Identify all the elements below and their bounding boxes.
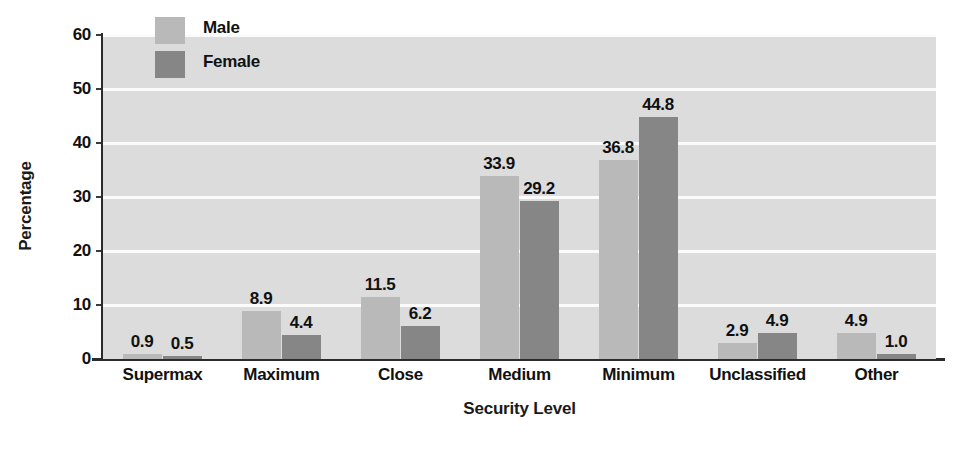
bar-male: 2.9 <box>718 343 757 359</box>
x-axis-tick-label: Close <box>378 365 423 385</box>
bar-value-label: 4.9 <box>830 311 882 331</box>
bar-value-label: 1.0 <box>870 332 922 352</box>
y-axis-tick-label: 10 <box>73 295 91 315</box>
bar-female: 4.4 <box>282 335 321 359</box>
plot-area: 0.90.58.94.411.56.233.929.236.844.82.94.… <box>103 35 936 359</box>
bar-group: 33.929.2 <box>480 35 559 359</box>
bar-chart: Percentage 0102030405060 0.90.58.94.411.… <box>0 0 972 452</box>
y-axis-tick-label: 30 <box>73 187 91 207</box>
x-axis-tick-label: Minimum <box>602 365 675 385</box>
bar-value-label: 33.9 <box>473 154 525 174</box>
bar-male: 0.9 <box>123 354 162 359</box>
bar-female: 44.8 <box>639 117 678 359</box>
y-axis-tick-label: 40 <box>73 133 91 153</box>
bar-group: 2.94.9 <box>718 35 797 359</box>
bar-group: 36.844.8 <box>599 35 678 359</box>
x-axis-tick-labels: SupermaxMaximumCloseMediumMinimumUnclass… <box>103 365 936 395</box>
bar-group: 0.90.5 <box>123 35 202 359</box>
x-axis-tick-label: Unclassified <box>709 365 806 385</box>
y-axis-ticks: 0102030405060 <box>0 0 103 452</box>
legend-item: Male <box>155 14 325 48</box>
bar-female: 6.2 <box>401 326 440 359</box>
bar-value-label: 44.8 <box>632 95 684 115</box>
legend-item: Female <box>155 48 325 82</box>
legend-label: Female <box>203 52 260 72</box>
bar-value-label: 8.9 <box>235 289 287 309</box>
bar-male: 33.9 <box>480 176 519 359</box>
bar-female: 0.5 <box>163 356 202 359</box>
bar-value-label: 6.2 <box>394 304 446 324</box>
x-axis-tick-label: Supermax <box>123 365 203 385</box>
x-axis-tick-label: Maximum <box>243 365 319 385</box>
bar-female: 1.0 <box>877 354 916 359</box>
y-axis-tick-label: 20 <box>73 241 91 261</box>
y-axis-tick-label: 0 <box>82 349 91 369</box>
bar-female: 4.9 <box>758 333 797 359</box>
y-axis-tick-label: 60 <box>73 25 91 45</box>
legend: MaleFemale <box>155 14 325 82</box>
bar-female: 29.2 <box>520 201 559 359</box>
bar-group: 4.91.0 <box>837 35 916 359</box>
bar-group: 8.94.4 <box>242 35 321 359</box>
bar-value-label: 29.2 <box>513 179 565 199</box>
bar-group: 11.56.2 <box>361 35 440 359</box>
bar-value-label: 0.5 <box>156 334 208 354</box>
legend-swatch-male <box>155 17 185 44</box>
bar-male: 36.8 <box>599 160 638 359</box>
bar-value-label: 11.5 <box>354 275 406 295</box>
bar-value-label: 36.8 <box>592 138 644 158</box>
y-axis-tick-label: 50 <box>73 79 91 99</box>
legend-swatch-female <box>155 51 185 78</box>
x-axis-tick-label: Medium <box>488 365 550 385</box>
x-axis-title: Security Level <box>103 399 936 419</box>
bar-value-label: 4.9 <box>751 311 803 331</box>
bar-value-label: 4.4 <box>275 313 327 333</box>
x-axis-tick-label: Other <box>855 365 899 385</box>
legend-label: Male <box>203 18 240 38</box>
